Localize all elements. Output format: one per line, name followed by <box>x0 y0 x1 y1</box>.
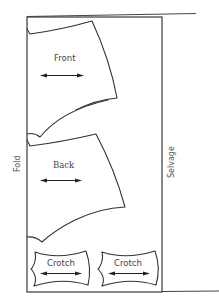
fabric-bottom-edge <box>162 291 219 292</box>
front-piece-outline <box>27 21 117 110</box>
front-piece-label: Front <box>54 53 76 63</box>
front-grainline-arrow-icon <box>40 74 84 78</box>
fabric-top-edge <box>27 14 196 17</box>
back-piece-upper-curve <box>27 100 108 137</box>
pattern-piece-front: Front <box>27 21 117 110</box>
crotch-1-outline <box>31 251 90 286</box>
back-piece-outline <box>27 134 125 242</box>
back-piece-label: Back <box>53 160 75 170</box>
back-grainline-arrow-icon <box>40 179 82 183</box>
fabric-rectangle <box>27 17 162 292</box>
crotch-2-label: Crotch <box>114 258 142 268</box>
crotch-2-grainline-arrow-icon <box>108 272 150 276</box>
selvage-edge-label: Selvage <box>167 146 176 178</box>
pattern-layout-diagram: Front Back Crotch Crotch <box>0 0 219 307</box>
pattern-piece-back: Back <box>27 100 125 242</box>
fold-edge-label: Fold <box>13 155 22 172</box>
pattern-piece-crotch-2: Crotch <box>98 251 158 286</box>
crotch-2-outline <box>98 251 158 286</box>
crotch-1-grainline-arrow-icon <box>40 272 82 276</box>
crotch-1-label: Crotch <box>47 258 75 268</box>
pattern-piece-crotch-1: Crotch <box>31 251 90 286</box>
